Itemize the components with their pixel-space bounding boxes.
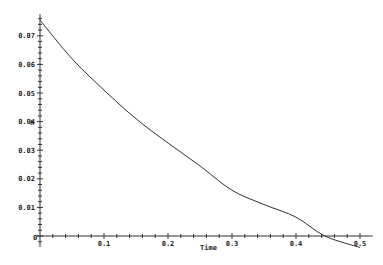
y-tick-label: 0.03	[18, 147, 35, 155]
origin-label: 0	[33, 234, 37, 242]
y-tick-label: 0.05	[18, 90, 35, 98]
x-tick-label: 0.3	[226, 240, 239, 248]
x-axis-label: Time	[200, 244, 217, 252]
data-line-h	[40, 20, 360, 247]
x-tick-label: 0.5	[354, 240, 367, 248]
y-tick-label: 0.01	[18, 204, 35, 212]
axes: 0.010.020.030.040.050.060.070.10.20.30.4…	[18, 14, 373, 248]
y-axis-label: h	[30, 119, 34, 127]
x-tick-label: 0.2	[162, 240, 175, 248]
y-tick-label: 0.02	[18, 175, 35, 183]
y-tick-label: 0.06	[18, 61, 35, 69]
y-tick-label: 0.07	[18, 32, 35, 40]
x-tick-label: 0.4	[290, 240, 303, 248]
line-chart: 0.010.020.030.040.050.060.070.10.20.30.4…	[0, 0, 383, 265]
x-tick-label: 0.1	[98, 240, 111, 248]
